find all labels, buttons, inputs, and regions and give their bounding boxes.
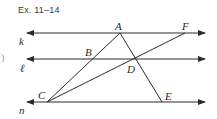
- point-label-F: F: [182, 21, 189, 32]
- line-label-k: k: [19, 36, 24, 47]
- line-label-n: n: [19, 105, 25, 116]
- geometry-figure: ) Ex. 11–14 k ℓ n A F B D C E: [0, 0, 217, 119]
- point-label-A: A: [115, 21, 122, 32]
- point-label-B: B: [85, 47, 92, 58]
- point-label-C: C: [38, 90, 45, 101]
- segment-CA: [47, 33, 120, 102]
- point-label-D: D: [127, 64, 135, 75]
- point-label-E: E: [165, 91, 172, 102]
- diagram-canvas: [0, 0, 217, 119]
- line-label-l: ℓ: [20, 63, 25, 74]
